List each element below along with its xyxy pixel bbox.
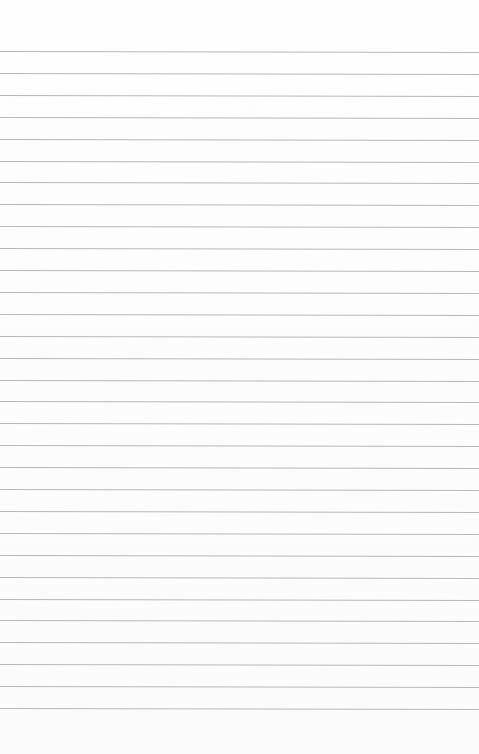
ruled-line xyxy=(0,117,479,119)
ruled-line xyxy=(0,533,479,535)
ruled-line xyxy=(0,577,479,579)
ruled-line xyxy=(0,380,479,382)
ruled-line xyxy=(0,664,479,666)
ruled-line xyxy=(0,270,479,272)
ruled-line xyxy=(0,336,479,338)
ruled-line xyxy=(0,292,479,294)
ruled-line xyxy=(0,642,479,644)
ruled-line xyxy=(0,467,479,469)
ruled-line xyxy=(0,248,479,250)
ruled-line xyxy=(0,423,479,425)
ruled-line xyxy=(0,358,479,360)
ruled-line xyxy=(0,182,479,184)
ruled-line xyxy=(0,226,479,228)
ruled-line xyxy=(0,686,479,688)
ruled-line xyxy=(0,73,479,75)
ruled-line xyxy=(0,489,479,491)
ruled-line xyxy=(0,599,479,601)
ruled-line xyxy=(0,511,479,513)
ruled-line xyxy=(0,445,479,447)
ruled-line xyxy=(0,620,479,622)
ruled-line xyxy=(0,161,479,163)
ruled-line xyxy=(0,314,479,316)
ruled-line xyxy=(0,204,479,206)
ruled-line xyxy=(0,139,479,141)
ruled-line xyxy=(0,401,479,403)
ruled-line xyxy=(0,51,479,53)
ruled-paper-sheet xyxy=(0,0,479,754)
ruled-line xyxy=(0,555,479,557)
ruled-line xyxy=(0,95,479,97)
ruled-line xyxy=(0,708,479,710)
